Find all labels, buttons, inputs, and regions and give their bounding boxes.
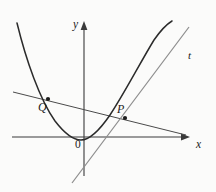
figure-canvas [0, 0, 216, 192]
tangent-line-t [72, 27, 189, 183]
point-Q-label: Q [38, 101, 47, 113]
y-axis-label: y [73, 19, 78, 31]
tangent-line-label: t [188, 50, 191, 61]
point-P-marker [123, 116, 127, 120]
x-axis-label: x [196, 139, 201, 151]
y-axis-arrowhead [81, 21, 88, 30]
math-figure: x y 0 Q P t [0, 0, 216, 192]
point-P-label: P [117, 103, 124, 115]
origin-label: 0 [75, 139, 81, 151]
